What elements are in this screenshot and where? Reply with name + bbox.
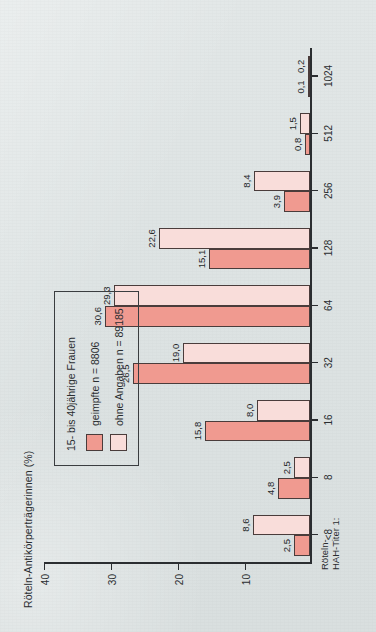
bar: 0,2 — [308, 56, 310, 77]
category-axis-tick-label: <8 — [323, 529, 334, 540]
category-axis-tick-label: 64 — [323, 300, 334, 311]
bar-group: 15,122,6 — [42, 228, 310, 269]
legend-swatch-geimpfte — [86, 434, 103, 451]
value-axis-tick-label: 20 — [173, 574, 184, 585]
bar-value-label: 15,8 — [192, 422, 203, 441]
category-axis-tick: 128 — [312, 247, 318, 248]
bar-group: 0,81,5 — [42, 113, 310, 154]
category-axis-tick-label: 256 — [323, 182, 334, 199]
bar-value-label: 8,6 — [240, 518, 251, 531]
bar-group: 0,10,2 — [42, 56, 310, 97]
category-axis-tick-label: 16 — [323, 414, 334, 425]
value-axis-tick: 30 — [111, 564, 112, 570]
bar-value-label: 0,8 — [292, 138, 303, 151]
bar: 15,1 — [209, 249, 310, 270]
category-axis-tick: 8 — [312, 477, 318, 478]
rotated-figure-wrapper: Röteln-Antikörperträgerinnen (%) Röteln-… — [18, 16, 358, 616]
category-axis-line — [310, 48, 312, 564]
bar: 15,8 — [205, 421, 311, 442]
scanned-page: Röteln-Antikörperträgerinnen (%) Röteln-… — [0, 0, 376, 632]
category-axis-tick: 1024 — [312, 75, 318, 76]
category-axis-tick-label: 32 — [323, 357, 334, 368]
category-axis-tick: 16 — [312, 419, 318, 420]
bar: 8,4 — [254, 171, 310, 192]
bar: 29,3 — [114, 285, 310, 306]
bar: 26,5 — [133, 363, 311, 384]
bar-value-label: 4,8 — [265, 482, 276, 495]
category-axis-tick-label: 512 — [323, 125, 334, 142]
category-axis-tick: 64 — [312, 305, 318, 306]
bar: 22,6 — [159, 228, 310, 249]
value-axis-tick: 20 — [178, 564, 179, 570]
legend-item-geimpfte: geimpfte n = 8806 — [86, 308, 103, 451]
category-axis-tick: 512 — [312, 133, 318, 134]
value-axis-tick: 10 — [245, 564, 246, 570]
bar-value-label: 15,1 — [196, 250, 207, 269]
value-axis-tick-label: 30 — [106, 574, 117, 585]
bar-value-label: 2,5 — [281, 461, 292, 474]
bar-value-label: 3,9 — [271, 195, 282, 208]
bar: 8,0 — [257, 400, 311, 421]
value-axis-tick-label: 40 — [39, 574, 50, 585]
bar: 1,5 — [300, 113, 310, 134]
value-axis-title: Röteln-Antikörperträgerinnen (%) — [22, 451, 34, 608]
legend: 15- bis 40jährige Frauen geimpfte n = 88… — [54, 291, 139, 466]
bar-value-label: 22,6 — [146, 229, 157, 248]
bar-value-label: 1,5 — [287, 117, 298, 130]
category-axis-tick-label: 8 — [323, 475, 334, 481]
bar-value-label: 2,5 — [281, 539, 292, 552]
category-axis-tick: 32 — [312, 362, 318, 363]
bar-group: 2,58,6 — [42, 515, 310, 556]
bar-value-label: 0,1 — [295, 80, 306, 93]
value-axis-tick-label: 10 — [240, 574, 251, 585]
legend-label-ohne-angaben: ohne Angaben n = 89185 — [113, 308, 125, 426]
bar-value-label: 8,0 — [244, 404, 255, 417]
bar: 4,8 — [278, 478, 310, 499]
category-axis-tick: <8 — [312, 534, 318, 535]
bar-value-label: 8,4 — [241, 174, 252, 187]
bar-value-label: 0,2 — [295, 60, 306, 73]
value-axis-tick: 40 — [44, 564, 45, 570]
category-axis-tick: 256 — [312, 190, 318, 191]
bar-group: 3,98,4 — [42, 171, 310, 212]
bar: 19,0 — [183, 343, 310, 364]
legend-swatch-ohne-angaben — [110, 434, 127, 451]
bar: 0,8 — [305, 134, 310, 155]
legend-title: 15- bis 40jährige Frauen — [65, 308, 77, 451]
legend-label-geimpfte: geimpfte n = 8806 — [89, 342, 101, 426]
category-axis-tick-label: 128 — [323, 240, 334, 257]
bar-chart: Röteln-Antikörperträgerinnen (%) Röteln-… — [18, 16, 358, 616]
legend-item-ohne-angaben: ohne Angaben n = 89185 — [110, 308, 127, 451]
bar: 8,6 — [253, 515, 311, 536]
category-axis-tick-label: 1024 — [323, 65, 334, 87]
bar-value-label: 19,0 — [170, 344, 181, 363]
bar: 2,5 — [294, 457, 311, 478]
bar: 0,1 — [308, 77, 310, 98]
bar: 2,5 — [294, 535, 311, 556]
bar: 3,9 — [284, 191, 310, 212]
